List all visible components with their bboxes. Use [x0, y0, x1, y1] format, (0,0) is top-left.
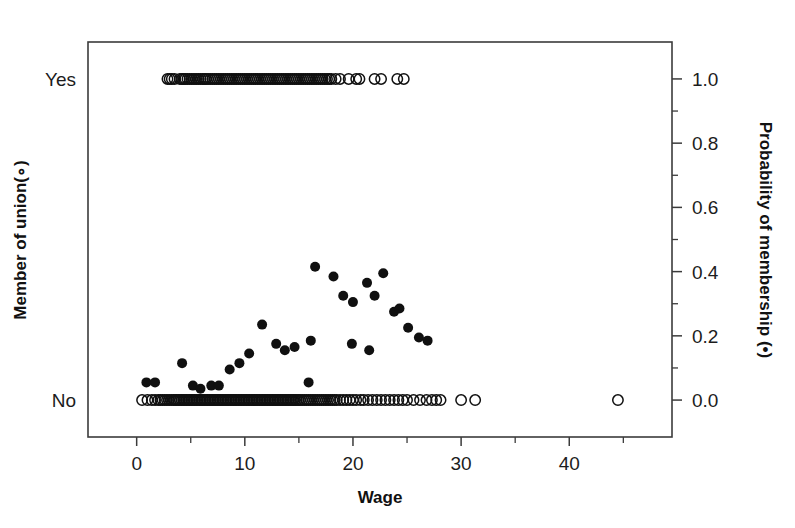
- x-axis-title: Wage: [358, 488, 403, 507]
- data-point-fitted: [304, 377, 314, 387]
- x-tick-label: 40: [559, 453, 580, 474]
- data-point-fitted: [177, 358, 187, 368]
- data-point-fitted: [348, 297, 358, 307]
- data-point-fitted: [244, 349, 254, 359]
- data-point-fitted: [195, 384, 205, 394]
- y-category-label-yes: Yes: [45, 69, 76, 90]
- data-point-fitted: [329, 271, 339, 281]
- data-point-fitted: [394, 304, 404, 314]
- x-tick-label: 10: [234, 453, 255, 474]
- data-point-fitted: [280, 345, 290, 355]
- x-tick-label: 30: [451, 453, 472, 474]
- figure-container: 010203040 0.00.20.40.60.81.0 NoYes Wage …: [0, 0, 795, 528]
- y-axis-right-title: Probability of membership (•): [756, 122, 775, 358]
- x-tick-label: 0: [131, 453, 142, 474]
- y-category-label-no: No: [52, 390, 76, 411]
- x-tick-label: 20: [342, 453, 363, 474]
- y-tick-label-right: 0.4: [692, 262, 719, 283]
- data-point-fitted: [310, 262, 320, 272]
- data-point-fitted: [423, 336, 433, 346]
- y-tick-label-right: 0.6: [692, 197, 718, 218]
- data-point-fitted: [214, 381, 224, 391]
- data-point-fitted: [225, 365, 235, 375]
- data-point-fitted: [414, 332, 424, 342]
- data-point-fitted: [150, 377, 160, 387]
- data-point-fitted: [141, 377, 151, 387]
- data-point-fitted: [234, 358, 244, 368]
- y-tick-label-right: 0.8: [692, 133, 718, 154]
- data-point-fitted: [403, 323, 413, 333]
- data-point-fitted: [347, 339, 357, 349]
- data-point-fitted: [378, 268, 388, 278]
- scatter-plot: 010203040 0.00.20.40.60.81.0 NoYes Wage …: [0, 0, 795, 528]
- data-point-fitted: [257, 320, 267, 330]
- y-tick-label-right: 0.0: [692, 390, 718, 411]
- data-point-fitted: [370, 291, 380, 301]
- y-tick-label-right: 0.2: [692, 326, 718, 347]
- y-tick-label-right: 1.0: [692, 69, 718, 90]
- data-point-fitted: [364, 345, 374, 355]
- data-point-fitted: [338, 291, 348, 301]
- data-point-fitted: [290, 342, 300, 352]
- data-point-fitted: [271, 339, 281, 349]
- data-point-fitted: [362, 278, 372, 288]
- data-point-fitted: [306, 336, 316, 346]
- y-axis-left-title: Member of union(∘): [11, 160, 30, 319]
